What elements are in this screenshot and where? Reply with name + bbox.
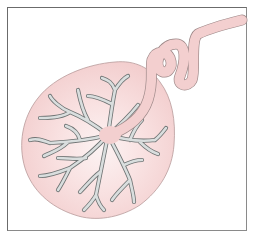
placenta-illustration [0,0,257,239]
cord-insertion [99,126,121,144]
